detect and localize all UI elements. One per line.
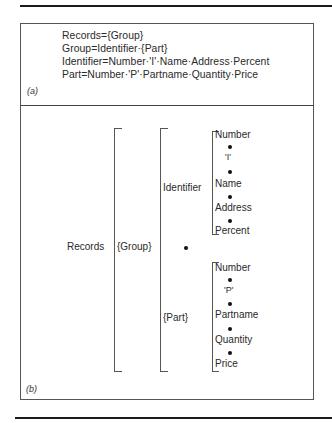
panel-b-label: (b): [26, 384, 37, 394]
sequence-dot: [228, 170, 232, 174]
sequence-dot: [228, 351, 232, 355]
panel-divider: [20, 105, 314, 106]
group-label: {Group}: [117, 241, 151, 252]
identifier-label: Identifier: [163, 182, 201, 193]
part-item-price: Price: [215, 358, 238, 369]
identifier-item-address: Address: [215, 202, 252, 213]
identifier-item-number: Number: [215, 129, 251, 140]
part-label: {Part}: [163, 312, 188, 323]
sequence-dot: [228, 302, 232, 306]
part-item-quantity: Quantity: [215, 334, 252, 345]
identifier-item-name: Name: [215, 178, 242, 189]
part-item-p: 'P': [224, 285, 233, 295]
group-bracket: [160, 128, 168, 372]
panel-a-label: (a): [27, 86, 38, 96]
grammar-rules: Records={Group} Group=Identifier·{Part} …: [62, 29, 269, 81]
part-item-partname: Partname: [215, 309, 258, 320]
rule-part: Part=Number·'P'·Partname·Quantity·Price: [62, 68, 269, 81]
identifier-item-percent: Percent: [215, 225, 249, 236]
identifier-item-i: 'I': [225, 152, 231, 162]
rule-group: Group=Identifier·{Part}: [62, 42, 269, 55]
rule-identifier: Identifier=Number·'I'·Name·Address·Perce…: [62, 55, 269, 68]
sequence-dot: [228, 327, 232, 331]
sequence-dot: [228, 195, 232, 199]
sequence-dot: [228, 219, 232, 223]
part-item-number: Number: [215, 262, 251, 273]
top-rule: [20, 5, 332, 7]
sequence-dot: [184, 246, 188, 250]
bottom-rule: [15, 417, 332, 419]
records-label: Records: [67, 241, 104, 252]
rule-records: Records={Group}: [62, 29, 269, 42]
sequence-dot: [228, 278, 232, 282]
sequence-dot: [228, 145, 232, 149]
